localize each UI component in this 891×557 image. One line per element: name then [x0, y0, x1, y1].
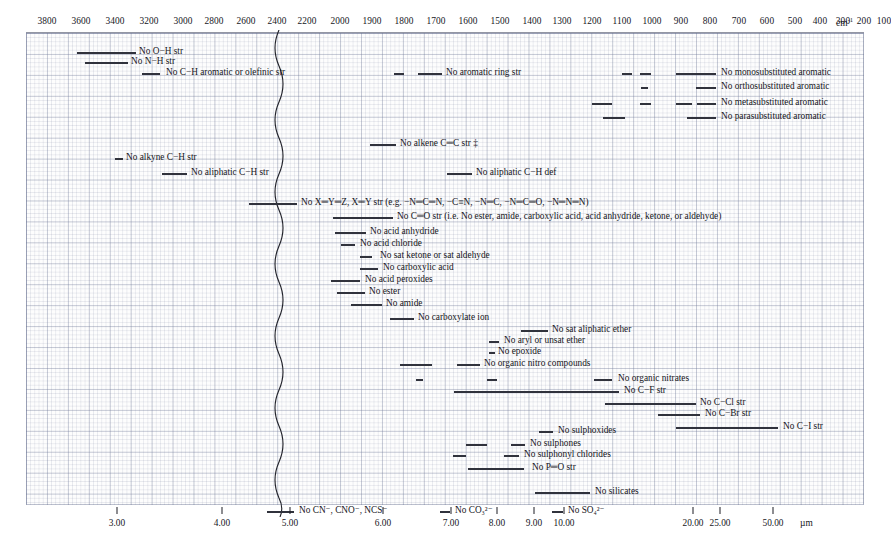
- top-wavenumber-axis: 3800360034003200300028002600240022002000…: [0, 16, 878, 32]
- wavenumber-tick-3000: 3000: [173, 16, 192, 26]
- absorption-band-bar: [676, 73, 716, 75]
- assignment-label: No ester: [369, 286, 400, 297]
- assignment-label: No acid chloride: [360, 238, 422, 249]
- wavenumber-tick-1500: 1500: [490, 16, 509, 26]
- assignment-label: No parasubstituted aromatic: [721, 111, 826, 122]
- assignment-row: No alkene C═C str ‡: [0, 139, 878, 150]
- wavenumber-tick-2400: 2400: [267, 16, 286, 26]
- bottom-wavelength-axis: 3.004.005.006.007.008.009.0010.0020.0025…: [0, 507, 878, 547]
- absorption-band-bar: [453, 455, 466, 457]
- absorption-band-bar: [511, 444, 525, 446]
- wavelength-tickmark-9.00: [534, 507, 535, 514]
- absorption-band-bar: [603, 117, 625, 119]
- assignment-row: No organic nitrates: [0, 374, 878, 385]
- assignment-row: No aryl or unsat ether: [0, 336, 878, 347]
- assignment-label: No organic nitro compounds: [484, 358, 590, 369]
- wavenumber-tick-1100: 1100: [613, 16, 632, 26]
- absorption-band-bar: [504, 455, 519, 457]
- assignment-label: No C−Cl str: [700, 397, 746, 408]
- assignment-row: No acid anhydride: [0, 227, 878, 238]
- absorption-band-bar: [360, 256, 372, 258]
- wavenumber-tick-800: 800: [703, 16, 717, 26]
- wavelength-tick-10.00: 10.00: [553, 518, 574, 528]
- assignment-row: No sulphoxides: [0, 426, 878, 437]
- assignment-row: No amide: [0, 299, 878, 310]
- assignment-row: No ester: [0, 287, 878, 298]
- assignment-label: No alkene C═C str ‡: [400, 138, 478, 149]
- assignment-label: No X═Y═Z, X═Y str (e.g. −N═C═N, −C≡N, −N…: [301, 197, 589, 208]
- assignment-label: No C−F str: [624, 385, 666, 396]
- wavelength-unit-label: µm: [800, 518, 813, 528]
- absorption-band-bar: [521, 330, 548, 332]
- assignment-label: No sulphoxides: [558, 425, 616, 436]
- assignment-row: No metasubstituted aromatic: [0, 98, 878, 109]
- assignment-row: No epoxide: [0, 347, 878, 358]
- assignment-row: No sat aliphatic ether: [0, 325, 878, 336]
- absorption-band-bar: [249, 203, 297, 205]
- assignment-label: No carboxylate ion: [418, 312, 489, 323]
- absorption-band-bar: [454, 391, 619, 393]
- assignment-row: No organic nitro compounds: [0, 359, 878, 370]
- wavelength-tick-9.00: 9.00: [526, 518, 542, 528]
- absorption-band-bar: [605, 403, 696, 405]
- absorption-band-bar: [640, 73, 651, 75]
- assignment-label: No epoxide: [498, 346, 541, 357]
- wavelength-tick-25.00: 25.00: [709, 518, 730, 528]
- wavenumber-tick-3600: 3600: [71, 16, 90, 26]
- assignment-row: No aliphatic C−H def: [0, 168, 878, 179]
- wavenumber-tick-1700: 1700: [426, 16, 445, 26]
- wavenumber-tick-1200: 1200: [582, 16, 601, 26]
- wavelength-tickmark-3.00: [117, 507, 118, 514]
- wavelength-tickmark-7.00: [451, 507, 452, 514]
- assignment-label: No aryl or unsat ether: [504, 335, 585, 346]
- wavelength-tick-7.00: 7.00: [443, 518, 459, 528]
- wavenumber-tick-500: 500: [788, 16, 802, 26]
- wavenumber-tick-1000: 1000: [642, 16, 661, 26]
- assignment-label: No sat ketone or sat aldehyde: [380, 250, 490, 261]
- assignment-row: No carboxylic acid: [0, 263, 878, 274]
- assignment-row: No alkyne C−H str: [0, 153, 878, 164]
- wavenumber-tick-1400: 1400: [522, 16, 541, 26]
- assignment-label: No silicates: [595, 486, 639, 497]
- absorption-band-bar: [539, 431, 553, 433]
- assignment-label: No acid anhydride: [370, 226, 439, 237]
- assignment-label: No sulphones: [530, 438, 581, 449]
- wavelength-tickmark-6.00: [383, 507, 384, 514]
- wavelength-tickmark-8.00: [497, 507, 498, 514]
- assignment-label: No amide: [386, 298, 422, 309]
- wavenumber-unit-label: cm-1: [836, 16, 853, 28]
- absorption-band-bar: [400, 364, 432, 366]
- absorption-band-bar: [594, 379, 612, 381]
- assignment-row: No sulphones: [0, 439, 878, 450]
- wavenumber-tick-1900: 1900: [362, 16, 381, 26]
- wavenumber-tick-2000: 2000: [330, 16, 349, 26]
- absorption-band-bar: [370, 144, 396, 146]
- wavenumber-tick-3800: 3800: [37, 16, 56, 26]
- absorption-band-bar: [622, 73, 632, 75]
- wavenumber-tick-1600: 1600: [458, 16, 477, 26]
- wavenumber-tick-400: 400: [813, 16, 827, 26]
- wavelength-tick-20.00: 20.00: [682, 518, 703, 528]
- wavelength-tick-6.00: 6.00: [375, 518, 391, 528]
- absorption-band-bar: [696, 87, 716, 89]
- assignment-row: No carboxylate ion: [0, 313, 878, 324]
- absorption-band-bar: [487, 379, 497, 381]
- absorption-band-bar: [115, 158, 123, 160]
- assignment-label: No orthosubstituted aromatic: [721, 81, 829, 92]
- assignment-row: No sulphonyl chlorides: [0, 450, 878, 461]
- assignment-label: No C−Br str: [705, 408, 751, 419]
- assignment-label: No acid peroxides: [365, 274, 433, 285]
- absorption-band-bar: [535, 492, 590, 494]
- assignment-row: No C−F str: [0, 386, 878, 397]
- absorption-band-bar: [489, 352, 495, 354]
- assignment-row: No monosubstituted aromatic: [0, 68, 878, 79]
- absorption-band-bar: [466, 444, 487, 446]
- absorption-band-bar: [687, 117, 716, 119]
- assignment-row: No parasubstituted aromatic: [0, 112, 878, 123]
- wavenumber-tick-1800: 1800: [394, 16, 413, 26]
- wavelength-tickmark-25.00: [720, 507, 721, 514]
- wavelength-tick-4.00: 4.00: [214, 518, 230, 528]
- assignment-row: No X═Y═Z, X═Y str (e.g. −N═C═N, −C≡N, −N…: [0, 198, 878, 209]
- assignment-label: No C═O str (i.e. No ester, amide, carbox…: [397, 211, 721, 222]
- assignment-row: No P═O str: [0, 463, 878, 474]
